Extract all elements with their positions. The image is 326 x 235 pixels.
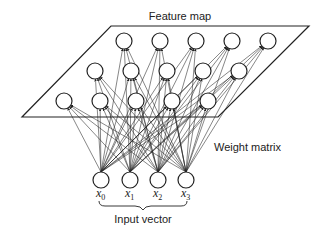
feature-node [224,33,240,49]
input-label: x1 [124,186,134,202]
weight-edge [71,105,186,172]
feature-node [56,93,72,109]
weight-edge [101,76,233,172]
input-brace [99,201,187,210]
feature-node [116,33,132,49]
weight-edge [130,79,131,172]
weight-edge [68,108,101,172]
weight-edge [135,78,186,172]
feature-node [123,63,139,79]
feature-node [231,63,247,79]
weight-edge [130,47,227,172]
input-label: x2 [152,186,162,202]
weight-edge [100,77,186,172]
input-label: x3 [180,186,190,202]
weight-edge [158,77,234,172]
feature-node [87,63,103,79]
weight-matrix-label: Weight matrix [214,141,282,153]
input-vector-label: Input vector [114,213,172,225]
input-vector-nodes: x0x1x2x3 [93,172,194,202]
feature-node [260,33,276,49]
feature-node [188,33,204,49]
neural-network-diagram: x0x1x2x3 Feature map Weight matrix Input… [0,0,326,235]
feature-node [152,33,168,49]
feature-map-label: Feature map [149,10,211,22]
weight-edge [98,79,130,172]
weight-edge [174,109,186,172]
feature-node [92,93,108,109]
feature-node [128,93,144,109]
feature-node [195,63,211,79]
feature-node [164,93,180,109]
feature-node [159,63,175,79]
feature-node [200,93,216,109]
weight-edge [186,79,202,172]
input-label: x0 [95,186,105,202]
feature-map-nodes [56,33,276,109]
